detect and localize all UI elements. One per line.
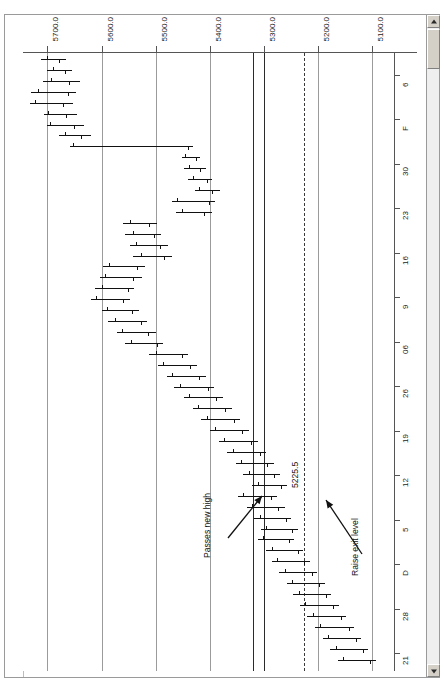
chart-window: FDXH6 LAST-Daily 02/07/2006 C=5680.0 +28…: [0, 0, 444, 688]
arrow-passes-new-high: [228, 496, 262, 538]
annotation-arrows: [0, 0, 444, 688]
arrow-raise-exit-level: [326, 500, 362, 554]
